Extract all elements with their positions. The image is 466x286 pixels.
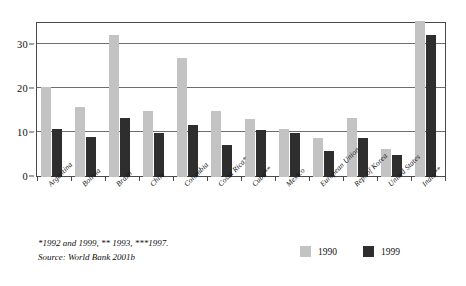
x-tick-mark bbox=[411, 177, 412, 181]
bar-group bbox=[71, 23, 105, 177]
bar-1990 bbox=[41, 87, 51, 177]
y-tick-label-10: 10 bbox=[17, 127, 28, 138]
legend: 1990 1999 bbox=[300, 246, 400, 257]
legend-swatch-1990 bbox=[300, 246, 311, 257]
y-tick-mark-20 bbox=[29, 88, 34, 89]
x-tick-mark bbox=[105, 177, 106, 181]
x-tick-mark bbox=[71, 177, 72, 181]
x-tick-mark bbox=[37, 177, 38, 181]
bar-1990 bbox=[313, 138, 323, 177]
bar-1990 bbox=[109, 35, 119, 177]
x-tick-mark bbox=[173, 177, 174, 181]
y-tick-mark-0 bbox=[29, 176, 34, 177]
bar-group bbox=[309, 23, 343, 177]
legend-entry-1990: 1990 bbox=[300, 246, 337, 257]
bar-group bbox=[173, 23, 207, 177]
bar-group bbox=[37, 23, 71, 177]
x-tick-mark bbox=[343, 177, 344, 181]
bar-group bbox=[105, 23, 139, 177]
bar-group bbox=[275, 23, 309, 177]
x-tick-mark bbox=[241, 177, 242, 181]
y-tick-label-0: 0 bbox=[23, 171, 28, 182]
bar-1990 bbox=[75, 107, 85, 177]
bar-1999 bbox=[426, 35, 436, 177]
bar-group bbox=[139, 23, 173, 177]
x-tick-mark bbox=[139, 177, 140, 181]
y-tick-label-20: 20 bbox=[17, 83, 28, 94]
bar-1990 bbox=[245, 119, 255, 177]
x-tick-mark bbox=[377, 177, 378, 181]
bar-1990 bbox=[279, 129, 289, 177]
bar-group bbox=[207, 23, 241, 177]
x-tick-mark bbox=[207, 177, 208, 181]
y-axis: 0102030 bbox=[0, 22, 34, 177]
legend-label-1999: 1999 bbox=[381, 247, 400, 257]
bar-1990 bbox=[177, 58, 187, 177]
legend-entry-1999: 1999 bbox=[363, 246, 400, 257]
x-tick-mark bbox=[309, 177, 310, 181]
x-axis-labels: ArgentinaBoliviaBrazilChileColombiaCosta… bbox=[0, 182, 466, 234]
footnote-source: Source: World Bank 2001b bbox=[38, 250, 169, 264]
x-tick-mark bbox=[275, 177, 276, 181]
bar-1990 bbox=[143, 111, 153, 177]
x-tick-mark bbox=[445, 177, 446, 181]
bar-1999 bbox=[120, 118, 130, 177]
legend-swatch-1999 bbox=[363, 246, 374, 257]
footnote-asterisks: *1992 and 1999, ** 1993, ***1997. bbox=[38, 236, 169, 250]
y-tick-mark-10 bbox=[29, 132, 34, 133]
footnotes: *1992 and 1999, ** 1993, ***1997. Source… bbox=[38, 236, 169, 264]
y-tick-label-30: 30 bbox=[17, 39, 28, 50]
bar-1990 bbox=[211, 111, 221, 177]
legend-label-1990: 1990 bbox=[318, 247, 337, 257]
y-tick-mark-30 bbox=[29, 44, 34, 45]
bar-chart-figure: 0102030 ArgentinaBoliviaBrazilChileColom… bbox=[0, 0, 466, 286]
bar-group bbox=[241, 23, 275, 177]
